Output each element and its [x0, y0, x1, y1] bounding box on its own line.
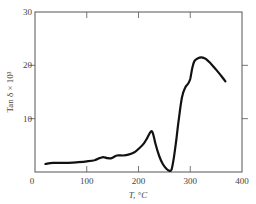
y-tick-label: 10: [23, 114, 33, 124]
tick-labels: 0100200300400102030: [23, 7, 249, 186]
x-tick-label: 200: [132, 176, 146, 186]
x-tick-label: 400: [235, 176, 249, 186]
data-line: [45, 57, 225, 171]
x-tick-label: 100: [80, 176, 94, 186]
y-axis-label: Tan δ × 10³: [5, 71, 15, 112]
y-tick-label: 30: [23, 7, 33, 17]
x-tick-label: 300: [184, 176, 198, 186]
y-tick-label: 20: [23, 60, 33, 70]
tan-delta-chart: 0100200300400102030 T, °C Tan δ × 10³: [0, 0, 256, 204]
x-tick-label: 0: [30, 176, 35, 186]
x-axis-label: T, °C: [129, 190, 148, 200]
